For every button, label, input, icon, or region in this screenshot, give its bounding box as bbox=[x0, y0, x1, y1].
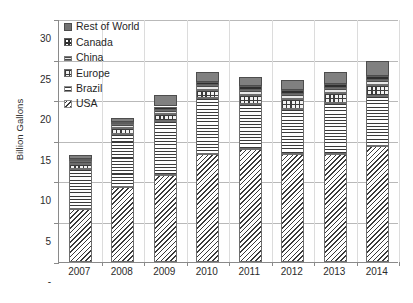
x-axis-tick-label: 2007 bbox=[58, 267, 100, 277]
bar-segment-rest-of-world[interactable] bbox=[324, 72, 347, 84]
category-separator bbox=[229, 20, 230, 262]
bar-segment-canada[interactable] bbox=[196, 82, 219, 85]
x-axis-tick bbox=[144, 262, 145, 266]
y-axis-tick-label: 10 bbox=[25, 196, 51, 206]
y-axis-tick bbox=[54, 263, 59, 264]
y-axis-tick-label: 25 bbox=[25, 75, 51, 85]
legend-item-europe[interactable]: Europe bbox=[64, 65, 194, 80]
bar-segment-china[interactable] bbox=[69, 161, 92, 164]
bar-segment-rest-of-world[interactable] bbox=[281, 80, 304, 91]
x-axis-tick-label: 2012 bbox=[271, 267, 313, 277]
x-axis-tick-label: 2011 bbox=[228, 267, 270, 277]
bar-segment-europe[interactable] bbox=[324, 93, 347, 104]
category-separator bbox=[314, 20, 315, 262]
y-axis-tick-label: 5 bbox=[25, 237, 51, 247]
legend-item-label: China bbox=[76, 52, 103, 63]
bar-segment-rest-of-world[interactable] bbox=[366, 61, 389, 76]
bar-segment-usa[interactable] bbox=[196, 154, 219, 262]
usa-swatch-icon bbox=[64, 100, 72, 108]
bar-segment-europe[interactable] bbox=[281, 99, 304, 109]
x-axis-tick-label: 2014 bbox=[356, 267, 398, 277]
x-axis-tick-label: 2010 bbox=[186, 267, 228, 277]
bar-segment-china[interactable] bbox=[281, 94, 304, 99]
y-axis-tick-label: 15 bbox=[25, 156, 51, 166]
y-axis-tick bbox=[54, 223, 59, 224]
y-axis-tick bbox=[54, 101, 59, 102]
bar-segment-rest-of-world[interactable] bbox=[196, 72, 219, 83]
bar-segment-china[interactable] bbox=[366, 80, 389, 85]
bar-segment-europe[interactable] bbox=[69, 164, 92, 169]
bar-2011[interactable] bbox=[239, 19, 262, 262]
y-axis-title: Billion Gallons bbox=[14, 70, 25, 190]
bar-segment-brazil[interactable] bbox=[324, 103, 347, 154]
y-axis-tick-label: 30 bbox=[25, 34, 51, 44]
canada-swatch-icon bbox=[64, 38, 72, 46]
bar-segment-europe[interactable] bbox=[196, 90, 219, 98]
bar-segment-brazil[interactable] bbox=[239, 104, 262, 149]
bar-segment-usa[interactable] bbox=[239, 149, 262, 262]
x-axis-tick bbox=[229, 262, 230, 266]
bar-segment-rest-of-world[interactable] bbox=[111, 118, 134, 122]
row-swatch-icon bbox=[64, 23, 72, 31]
legend-item-label: Canada bbox=[76, 37, 113, 48]
x-axis-tick bbox=[357, 262, 358, 266]
bar-segment-usa[interactable] bbox=[154, 175, 177, 262]
category-separator bbox=[399, 20, 400, 262]
x-axis-tick bbox=[314, 262, 315, 266]
chart-legend: Rest of WorldCanadaChinaEuropeBrazilUSA bbox=[64, 19, 194, 111]
bar-segment-canada[interactable] bbox=[239, 86, 262, 90]
legend-item-rest-of-world[interactable]: Rest of World bbox=[64, 19, 194, 34]
bar-segment-china[interactable] bbox=[111, 124, 134, 128]
bar-segment-usa[interactable] bbox=[111, 187, 134, 262]
bar-segment-usa[interactable] bbox=[366, 146, 389, 262]
bar-segment-canada[interactable] bbox=[324, 84, 347, 88]
bar-segment-canada[interactable] bbox=[111, 122, 134, 124]
bar-segment-brazil[interactable] bbox=[111, 134, 134, 187]
bar-segment-brazil[interactable] bbox=[196, 98, 219, 154]
bar-2012[interactable] bbox=[281, 19, 304, 262]
bar-segment-europe[interactable] bbox=[239, 95, 262, 104]
bar-segment-canada[interactable] bbox=[366, 76, 389, 80]
bar-segment-china[interactable] bbox=[324, 88, 347, 93]
x-axis-tick bbox=[399, 262, 400, 266]
bar-segment-usa[interactable] bbox=[69, 209, 92, 262]
legend-item-china[interactable]: China bbox=[64, 50, 194, 65]
bar-2013[interactable] bbox=[324, 19, 347, 262]
stacked-bar-chart: Billion Gallons -51015202530 Rest of Wor… bbox=[0, 0, 413, 303]
brazil-swatch-icon bbox=[64, 86, 72, 92]
bar-segment-china[interactable] bbox=[239, 90, 262, 95]
legend-item-usa[interactable]: USA bbox=[64, 96, 194, 111]
bar-2014[interactable] bbox=[366, 19, 389, 262]
category-separator bbox=[272, 20, 273, 262]
bar-segment-europe[interactable] bbox=[154, 114, 177, 121]
y-axis-tick-label: 20 bbox=[25, 115, 51, 125]
bar-segment-rest-of-world[interactable] bbox=[239, 77, 262, 87]
bar-2010[interactable] bbox=[196, 19, 219, 262]
bar-segment-brazil[interactable] bbox=[281, 109, 304, 154]
y-axis-tick bbox=[54, 182, 59, 183]
bar-segment-europe[interactable] bbox=[366, 85, 389, 96]
legend-item-canada[interactable]: Canada bbox=[64, 34, 194, 49]
x-axis-tick-label: 2009 bbox=[143, 267, 185, 277]
bar-segment-usa[interactable] bbox=[324, 154, 347, 262]
x-axis-tick-label: 2008 bbox=[101, 267, 143, 277]
legend-item-label: Rest of World bbox=[76, 21, 139, 32]
legend-item-label: USA bbox=[76, 98, 98, 109]
bar-segment-europe[interactable] bbox=[111, 128, 134, 134]
category-separator bbox=[357, 20, 358, 262]
x-axis-tick-label: 2013 bbox=[313, 267, 355, 277]
bar-segment-brazil[interactable] bbox=[154, 121, 177, 174]
bar-segment-rest-of-world[interactable] bbox=[69, 155, 92, 159]
bar-segment-canada[interactable] bbox=[281, 90, 304, 94]
bar-segment-brazil[interactable] bbox=[69, 169, 92, 210]
x-axis-tick bbox=[102, 262, 103, 266]
y-axis-tick bbox=[54, 61, 59, 62]
x-axis-tick bbox=[187, 262, 188, 266]
bar-segment-china[interactable] bbox=[196, 85, 219, 90]
legend-item-brazil[interactable]: Brazil bbox=[64, 81, 194, 96]
x-axis-tick bbox=[272, 262, 273, 266]
y-axis-tick bbox=[54, 20, 59, 21]
bar-segment-brazil[interactable] bbox=[366, 96, 389, 146]
legend-item-label: Brazil bbox=[76, 83, 102, 94]
bar-segment-usa[interactable] bbox=[281, 154, 304, 262]
